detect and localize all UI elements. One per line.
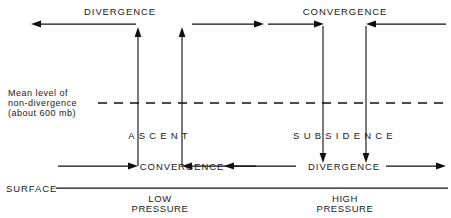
label-lower-convergence: CONVERGENCE (140, 161, 224, 172)
mean-level-note-line-3: (about 600 mb) (8, 108, 76, 118)
high-pressure-label-line-2: PRESSURE (316, 203, 373, 214)
top-middle-right-inflow-arrow (268, 20, 324, 27)
mean-level-note-line-2: non-divergence (8, 98, 77, 108)
label-upper-convergence: CONVERGENCE (303, 6, 387, 17)
label-ascent: ASCENT (128, 130, 192, 141)
top-left-outflow-arrow (31, 20, 136, 27)
lower-right-outflow-arrow (386, 162, 446, 169)
lower-left-inflow-arrow (58, 162, 138, 169)
mean-level-note-line-1: Mean level of (8, 88, 68, 98)
top-middle-left-outflow-arrow (192, 20, 264, 27)
label-subsidence: SUBSIDENCE (293, 130, 397, 141)
label-lower-divergence: DIVERGENCE (308, 161, 380, 172)
label-surface: SURFACE (6, 183, 57, 194)
subsidence-column-left (320, 26, 327, 163)
low-pressure-label-line-2: PRESSURE (131, 203, 188, 214)
ascent-column-right (179, 27, 186, 166)
label-upper-divergence: DIVERGENCE (84, 6, 156, 17)
lower-middle-right-outflow-arrow (224, 162, 296, 169)
ascent-column-left (135, 27, 142, 166)
subsidence-column-right (363, 26, 370, 163)
top-right-inflow-arrow (366, 20, 446, 27)
atmospheric-circulation-diagram: DIVERGENCE CONVERGENCE Mean level of n (0, 0, 451, 218)
